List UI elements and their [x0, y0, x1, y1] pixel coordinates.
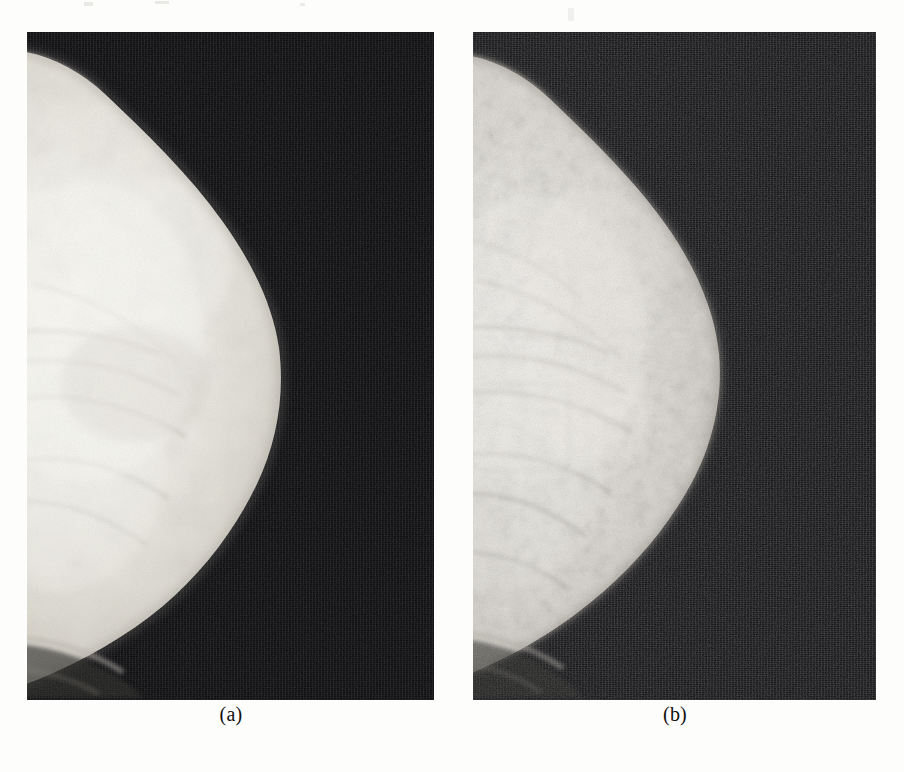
scan-artifact: [568, 8, 574, 21]
mammogram-panel-a: [27, 32, 434, 700]
caption-panel-a: (a): [181, 703, 281, 726]
scan-artifact: [84, 2, 93, 6]
breast-radiograph-a: [27, 32, 434, 700]
breast-radiograph-b: [473, 32, 876, 700]
mammogram-panel-b: [473, 32, 876, 700]
figure-root: (a) (b): [0, 0, 904, 772]
caption-panel-b: (b): [625, 703, 725, 726]
scan-artifact: [300, 3, 305, 6]
scan-artifact: [155, 1, 169, 4]
